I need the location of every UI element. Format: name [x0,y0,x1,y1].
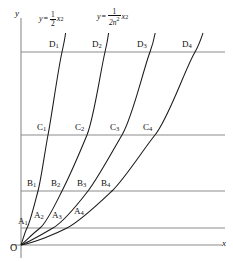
eq-right-lhs: y [97,13,101,21]
point-label-C1: C1 [37,123,46,133]
point-label-B4-sub: 4 [107,181,110,188]
eq-left-lhs: y [39,15,43,23]
point-label-B3: B3 [77,179,86,189]
eq-left-equals: = [44,15,49,23]
point-label-D4-sub: 4 [189,42,192,49]
point-label-B4: B4 [101,179,110,189]
point-label-D4: D4 [182,40,192,50]
eq-right-numerator: 1 [111,8,117,16]
point-label-D3: D3 [137,40,147,50]
eq-right-fraction: 1 2n2 [108,8,121,27]
eq-left-fraction: 1 2 [50,11,56,27]
point-label-A2: A2 [34,211,44,221]
eq-right-denominator-exponent: 2 [117,16,120,22]
point-label-B1: B1 [27,179,36,189]
eq-right-denominator-text: 2n [109,18,117,27]
point-label-A3-sub: 3 [59,213,62,220]
eq-right-denominator: 2n2 [108,15,121,27]
curve-4 [21,33,203,245]
eq-left-exponent: 2 [60,16,63,22]
point-label-B1-sub: 1 [33,181,36,188]
eq-left-numerator: 1 [50,11,56,19]
equation-label-left: y = 1 2 x2 [39,8,63,27]
point-label-C3: C3 [110,123,119,133]
point-label-C2: C2 [75,123,84,133]
curve-group [21,33,203,245]
point-label-A1: A1 [18,217,28,227]
point-label-A1-sub: 1 [25,219,28,226]
point-label-D2: D2 [92,40,102,50]
point-label-A4: A4 [74,207,84,217]
point-label-C4: C4 [143,123,152,133]
point-label-D1: D1 [49,40,59,50]
figure-canvas: y = 1 2 x2 y = 1 2n2 x2 y x O D1 D2 D3 D… [0,0,233,262]
point-label-A3: A3 [52,211,62,221]
point-label-B2: B2 [51,179,60,189]
gridline-group [21,52,225,228]
point-label-D1-sub: 1 [56,42,59,49]
origin-label: O [10,243,17,253]
eq-left-denominator: 2 [50,19,56,28]
point-label-B2-sub: 2 [57,181,60,188]
point-label-C4-sub: 4 [149,125,152,132]
eq-right-exponent: 2 [125,14,128,20]
point-label-D2-sub: 2 [99,42,102,49]
point-label-A4-sub: 4 [81,209,84,216]
point-label-C2-sub: 2 [81,125,84,132]
axis-group [12,18,222,258]
eq-right-equals: = [102,13,107,21]
point-label-B3-sub: 3 [83,181,86,188]
point-label-D3-sub: 3 [144,42,147,49]
x-axis-label: x [222,239,226,248]
point-label-C1-sub: 1 [43,125,46,132]
y-axis-label: y [15,9,19,18]
point-label-C3-sub: 3 [116,125,119,132]
point-label-A2-sub: 2 [41,213,44,220]
equation-label-right: y = 1 2n2 x2 [97,6,128,27]
